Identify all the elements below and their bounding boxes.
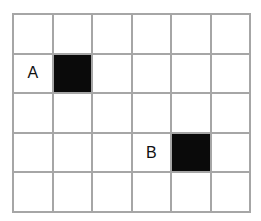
grid-cell: [212, 55, 252, 95]
cell-label-b: B: [133, 134, 173, 174]
grid-cell: [54, 94, 94, 134]
grid-cell: [14, 94, 54, 134]
grid-cell: [212, 15, 252, 55]
grid-cell: [172, 55, 212, 95]
filled-cell: [172, 134, 212, 174]
grid-cell: [93, 94, 133, 134]
filled-cell: [54, 55, 94, 95]
cell-label-a: A: [14, 55, 54, 95]
grid-cell: [212, 173, 252, 213]
grid-cell: [93, 173, 133, 213]
grid-cell: [133, 94, 173, 134]
grid-cell: [172, 173, 212, 213]
grid-cell: [133, 15, 173, 55]
grid-cell: [14, 134, 54, 174]
grid-cell: [54, 15, 94, 55]
grid-cell: [172, 15, 212, 55]
grid-cell: [14, 173, 54, 213]
grid-cell: [212, 134, 252, 174]
grid-cell: [172, 94, 212, 134]
grid-cell: [54, 173, 94, 213]
grid-cell: [93, 15, 133, 55]
grid-cell: [54, 134, 94, 174]
grid-cell: [212, 94, 252, 134]
grid-diagram: AB: [12, 13, 251, 213]
grid-cell: [14, 15, 54, 55]
grid-cell: [133, 173, 173, 213]
grid-cell: [93, 134, 133, 174]
grid-cell: [133, 55, 173, 95]
grid-cell: [93, 55, 133, 95]
